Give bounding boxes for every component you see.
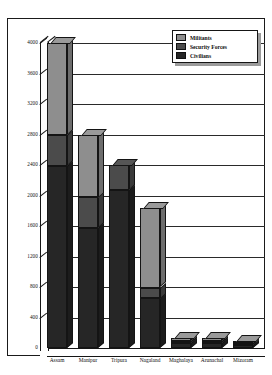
y-axis-tick-label: 1600 (2, 223, 38, 228)
bar-column[interactable] (47, 43, 67, 348)
y-axis-tick-label: 2800 (2, 132, 38, 137)
bar-column[interactable] (109, 165, 129, 348)
legend-swatch-civilians (176, 52, 186, 59)
legend-label-militants: Militants (190, 35, 212, 41)
bar-segment-side (67, 161, 73, 348)
chart-floor (40, 348, 265, 356)
bar-segment-civilians[interactable] (47, 166, 67, 348)
bar-segment-side (129, 185, 135, 348)
legend-label-civilians: Civilians (190, 53, 211, 59)
bar-column[interactable] (202, 338, 222, 348)
legend-item: Militants (176, 33, 254, 42)
legend-item: Security Forces (176, 42, 254, 51)
bar-segment-side (98, 223, 104, 348)
bar-segment-side (67, 129, 73, 165)
bar-segment-security-forces[interactable] (233, 343, 253, 345)
bar-segment-security-forces[interactable] (140, 288, 160, 299)
gridline (47, 74, 265, 75)
bar-segment-civilians[interactable] (140, 298, 160, 348)
bar-column[interactable] (233, 341, 253, 348)
axis-baseline (40, 348, 265, 349)
bar-column[interactable] (140, 208, 160, 348)
legend-swatch-militants (176, 34, 186, 41)
bar-segment-side (98, 192, 104, 228)
bar-segment-side (160, 293, 166, 348)
bar-segment-civilians[interactable] (109, 190, 129, 348)
legend-item: Civilians (176, 51, 254, 60)
bar-segment-militants[interactable] (78, 135, 98, 198)
bar-segment-militants[interactable] (47, 43, 67, 135)
stacked-bar-chart: 400036003200280024002000160012008004000 … (0, 0, 272, 375)
y-axis-tick-label: 1200 (2, 254, 38, 259)
gridline (47, 104, 265, 105)
bar-segment-side (67, 38, 73, 135)
legend-swatch-security-forces (176, 43, 186, 50)
bar-segment-security-forces[interactable] (109, 165, 129, 190)
y-axis-tick-label: 2000 (2, 193, 38, 198)
bar-segment-side (160, 203, 166, 287)
bar-segment-militants[interactable] (140, 208, 160, 287)
bar-segment-civilians[interactable] (202, 343, 222, 348)
y-axis-tick-label: 800 (2, 284, 38, 289)
bar-segment-security-forces[interactable] (202, 341, 222, 343)
y-axis-tick-label: 2400 (2, 162, 38, 167)
legend-label-security-forces: Security Forces (190, 44, 227, 50)
x-axis-label-mizoram: Mizoram (224, 357, 262, 363)
bar-segment-security-forces[interactable] (78, 197, 98, 228)
bar-column[interactable] (78, 135, 98, 349)
bar-segment-security-forces[interactable] (171, 341, 191, 343)
y-axis-tick-label: 3600 (2, 71, 38, 76)
y-axis-tick-label: 3200 (2, 101, 38, 106)
y-axis-tick-label: 400 (2, 315, 38, 320)
bar-column[interactable] (171, 338, 191, 348)
bar-segment-security-forces[interactable] (47, 135, 67, 166)
bar-segment-side (98, 129, 104, 197)
y-axis-tick-label: 4000 (2, 40, 38, 45)
chart-legend: Militants Security Forces Civilians (172, 30, 258, 63)
bar-segment-civilians[interactable] (171, 343, 191, 348)
bar-segment-civilians[interactable] (78, 228, 98, 348)
y-axis-tick-label: 0 (2, 345, 38, 350)
